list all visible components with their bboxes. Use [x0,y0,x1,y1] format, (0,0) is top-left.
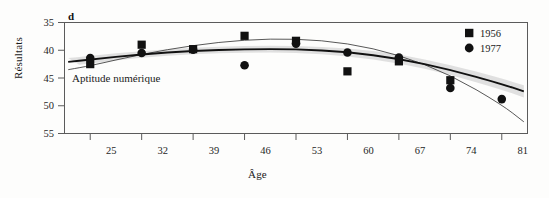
legend-square-marker-icon [465,29,473,37]
legend-label: 1956 [480,28,501,39]
data-point-square [138,41,146,49]
data-point-circle [343,48,352,57]
chart-canvas: 5550454035 253239465360677481 d Aptitude… [0,0,549,198]
y-tick-label: 40 [44,45,55,56]
plot-annotation: Aptitude numérique [72,72,160,84]
data-point-square [240,32,248,40]
x-tick-label: 81 [518,145,529,156]
data-point-square [343,67,351,75]
x-tick-label: 39 [209,145,220,156]
x-tick-label: 46 [260,145,271,156]
data-point-circle [395,53,404,62]
y-axis-title: Résultats [12,22,24,94]
x-tick-group: 253239465360677481 [90,134,528,157]
data-point-circle [137,49,146,58]
y-tick-label: 45 [44,73,55,84]
x-tick-label: 25 [106,145,117,156]
data-point-circle [292,39,301,48]
x-tick-label: 67 [415,145,426,156]
data-point-circle [446,84,455,93]
y-tick-label: 35 [44,17,55,28]
legend: 19561977 [461,21,517,54]
data-point-circle [497,95,506,104]
data-point-circle [86,54,95,63]
legend-label: 1977 [480,43,501,54]
panel-letter: d [68,10,74,22]
x-tick-label: 53 [312,145,323,156]
figure-panel: 5550454035 253239465360677481 d Aptitude… [0,0,549,198]
x-axis-title: Âge [248,168,267,180]
legend-circle-marker-icon [465,44,474,53]
data-point-circle [240,61,249,70]
y-tick-label: 50 [44,100,55,111]
x-tick-label: 60 [363,145,374,156]
data-point-circle [189,45,198,54]
x-tick-label: 32 [157,145,168,156]
y-tick-label: 55 [44,128,55,139]
x-tick-label: 74 [466,145,477,156]
y-tick-group: 5550454035 [44,17,65,139]
data-point-square [446,76,454,84]
